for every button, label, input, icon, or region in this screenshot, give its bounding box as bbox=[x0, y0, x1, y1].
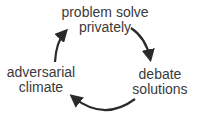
node-adversarial-climate: adversarial climate bbox=[0, 65, 87, 95]
node-label-line: climate bbox=[0, 80, 87, 95]
node-label-line: privately bbox=[55, 20, 155, 35]
arrow-left-to-top bbox=[55, 32, 65, 62]
node-label-line: debate bbox=[118, 67, 198, 82]
node-label-line: solutions bbox=[118, 82, 198, 97]
node-label-line: adversarial bbox=[0, 65, 87, 80]
node-label-line: problem solve bbox=[55, 5, 155, 20]
node-debate-solutions: debate solutions bbox=[118, 67, 198, 97]
arrow-right-to-left bbox=[73, 97, 135, 110]
node-problem-solve-privately: problem solve privately bbox=[55, 5, 155, 35]
